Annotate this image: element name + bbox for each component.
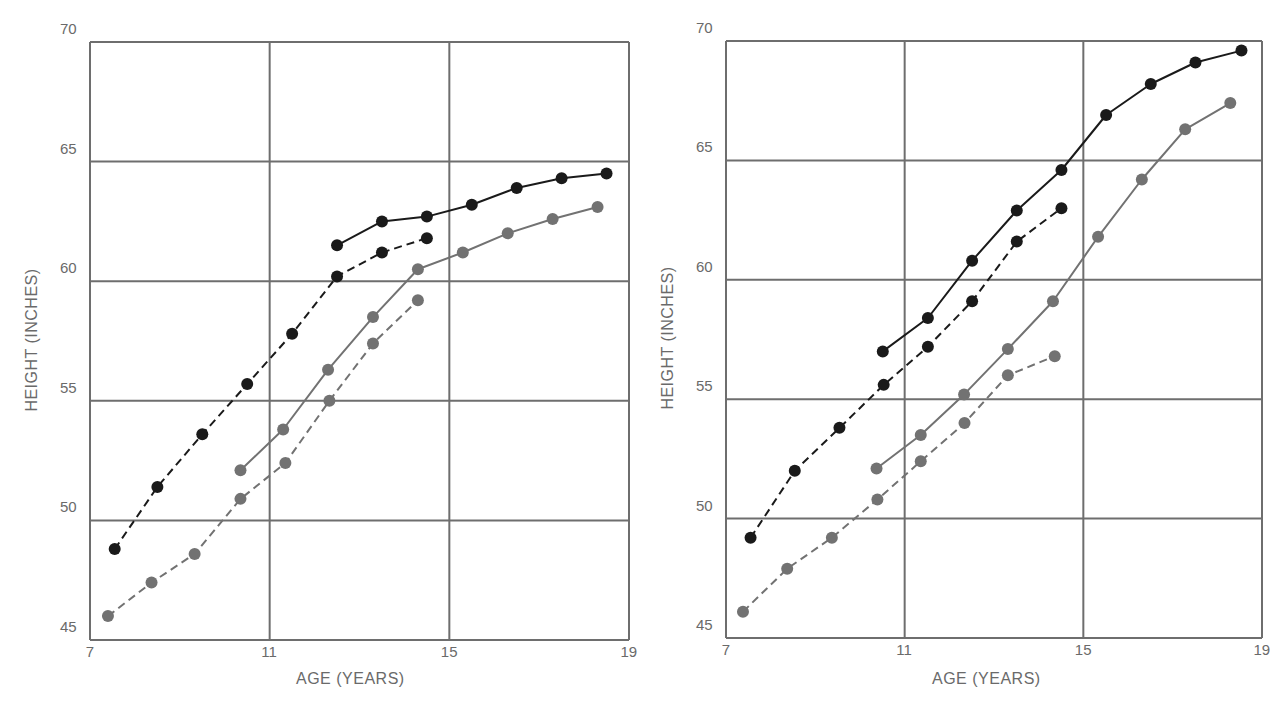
data-point [958, 388, 970, 400]
series-black-dashed [745, 202, 1068, 544]
data-point [877, 345, 889, 357]
x-tick-label: 11 [896, 641, 912, 658]
data-point [922, 312, 934, 324]
y-tick-label: 45 [696, 616, 713, 633]
data-point [959, 417, 971, 429]
data-point [1145, 78, 1157, 90]
data-point [915, 429, 927, 441]
data-point [1100, 109, 1112, 121]
data-point [871, 462, 883, 474]
y-tick-label: 70 [696, 19, 713, 36]
y-tick-label: 60 [696, 258, 713, 275]
data-point [833, 422, 845, 434]
data-point [1224, 97, 1236, 109]
data-point [1047, 295, 1059, 307]
data-point [915, 455, 927, 467]
data-point [1011, 205, 1023, 217]
data-point [1011, 236, 1023, 248]
data-point [1002, 369, 1014, 381]
data-point [826, 532, 838, 544]
series-gray-solid [871, 97, 1237, 474]
data-point [1055, 164, 1067, 176]
data-point [966, 295, 978, 307]
data-point [1136, 174, 1148, 186]
data-point [1002, 343, 1014, 355]
data-point [745, 532, 757, 544]
data-point [789, 465, 801, 477]
data-point [1235, 45, 1247, 57]
data-point [878, 379, 890, 391]
x-tick-label: 7 [722, 641, 730, 658]
y-tick-label: 50 [696, 497, 713, 514]
data-point [1092, 231, 1104, 243]
series-gray-dashed [737, 350, 1061, 618]
x-tick-label: 19 [1254, 641, 1270, 658]
data-point [1055, 202, 1067, 214]
x-tick-label: 15 [1075, 641, 1092, 658]
series-black-solid [877, 45, 1248, 358]
data-point [781, 563, 793, 575]
data-point [871, 493, 883, 505]
data-point [1049, 350, 1061, 362]
y-tick-label: 55 [696, 377, 713, 394]
data-point [737, 606, 749, 618]
y-tick-label: 65 [696, 138, 713, 155]
data-point [1179, 123, 1191, 135]
data-point [1189, 56, 1201, 68]
data-point [966, 255, 978, 267]
data-point [922, 341, 934, 353]
